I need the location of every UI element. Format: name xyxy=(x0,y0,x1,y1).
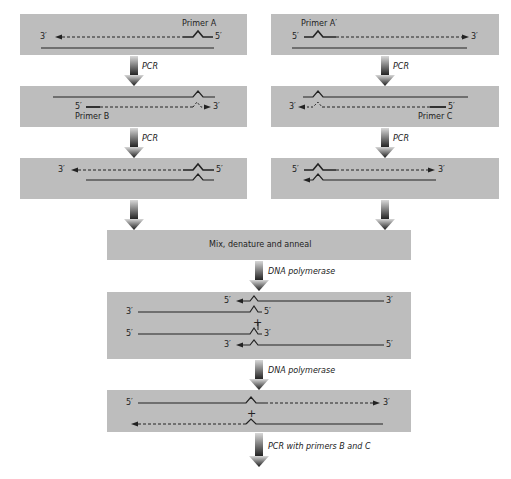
dna-polymerase-label: DNA polymerase xyxy=(268,367,335,375)
end-label: 5′ xyxy=(448,103,455,111)
end-label: 3′ xyxy=(289,103,296,111)
end-label: 5′ xyxy=(215,33,222,41)
end-label: 3′ xyxy=(386,297,393,305)
end-label: 5′ xyxy=(386,341,393,349)
pcr-label: PCR xyxy=(393,135,409,143)
pcr-primers-b-c-label: PCR with primers B and C xyxy=(268,443,371,451)
dna-polymerase-label: DNA polymerase xyxy=(268,268,335,276)
end-label: 3′ xyxy=(383,399,390,407)
end-label: 3′ xyxy=(58,166,65,174)
end-label: 5′ xyxy=(126,330,133,338)
end-label: 5′ xyxy=(224,297,231,305)
pcr-label: PCR xyxy=(142,63,158,71)
end-label: 5′ xyxy=(264,308,271,316)
primer-a-prime-label: Primer A′ xyxy=(301,20,337,28)
pcr-label: PCR xyxy=(142,135,158,143)
plus-sign: + xyxy=(253,317,262,328)
end-label: 3′ xyxy=(213,103,220,111)
end-label: 3′ xyxy=(224,341,231,349)
plus-sign: + xyxy=(247,408,256,419)
mix-denature-anneal-label: Mix, denature and anneal xyxy=(209,241,311,249)
flow-arrow-right-1 xyxy=(375,56,395,86)
pcr-label: PCR xyxy=(393,63,409,71)
end-label: 3′ xyxy=(264,330,271,338)
end-label: 3′ xyxy=(471,33,478,41)
primer-a-label: Primer A xyxy=(182,20,216,28)
flow-arrow-left-1 xyxy=(124,56,144,86)
primer-c-label: Primer C xyxy=(418,113,452,121)
end-label: 5′ xyxy=(75,103,82,111)
end-label: 5′ xyxy=(216,166,223,174)
end-label: 5′ xyxy=(292,166,299,174)
end-label: 3′ xyxy=(438,166,445,174)
end-label: 3′ xyxy=(126,308,133,316)
end-label: 3′ xyxy=(40,33,47,41)
end-label: 5′ xyxy=(292,33,299,41)
end-label: 5′ xyxy=(126,399,133,407)
primer-b-label: Primer B xyxy=(75,113,109,121)
